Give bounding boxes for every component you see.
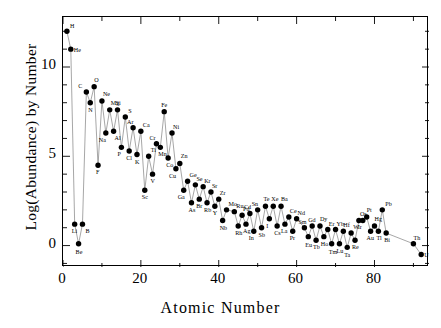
y-tick-label: 5 [26, 145, 56, 162]
data-point [181, 188, 186, 193]
element-label: I [266, 223, 268, 229]
element-label: Pt [367, 207, 372, 213]
x-tick-label: 80 [353, 270, 393, 287]
data-point [263, 204, 268, 209]
data-point [337, 241, 342, 246]
data-point [419, 252, 424, 257]
abundance-line [67, 31, 421, 254]
element-label: Au [367, 235, 374, 241]
data-point [146, 154, 151, 159]
element-label: Nb [220, 225, 227, 231]
data-point [126, 148, 131, 153]
data-point [115, 107, 120, 112]
data-point [158, 145, 163, 150]
data-point [282, 221, 287, 226]
element-label: As [188, 207, 195, 213]
element-label: Pb [385, 201, 391, 207]
data-point [317, 223, 322, 228]
element-label: Br [196, 203, 202, 209]
element-label: F [96, 169, 99, 175]
element-label: He [74, 47, 81, 53]
data-point [204, 200, 209, 205]
data-point [267, 216, 272, 221]
element-label: Ta [344, 252, 350, 258]
data-point [243, 221, 248, 226]
data-point [88, 100, 93, 105]
element-label: Tl [376, 235, 381, 241]
data-point [306, 234, 311, 239]
element-label: Ho [321, 241, 328, 247]
element-label: Si [116, 100, 121, 106]
element-label: Lu [336, 248, 343, 254]
data-point [103, 130, 108, 135]
data-point [313, 238, 318, 243]
element-label: Hg [374, 216, 381, 222]
element-label: Dy [320, 216, 327, 222]
element-label: Cs [274, 230, 280, 236]
x-tick-label: 20 [120, 270, 160, 287]
data-point [142, 188, 147, 193]
element-label: Te [263, 196, 269, 202]
y-tick-label: 10 [26, 56, 56, 73]
data-point [220, 218, 225, 223]
element-label: Nd [298, 210, 305, 216]
element-label: Y [213, 210, 217, 216]
element-label: Na [99, 137, 106, 143]
element-label: Ar [127, 119, 133, 125]
data-point [150, 171, 155, 176]
element-label: Ni [173, 124, 179, 130]
data-point [286, 214, 291, 219]
data-point [173, 166, 178, 171]
element-label: S [128, 108, 131, 114]
element-label: Ir [358, 224, 362, 230]
data-point [309, 223, 314, 228]
data-point [348, 230, 353, 235]
element-label: Fe [161, 102, 167, 108]
abundance-chart: Log(Abundance) by Number Atomic Number 0… [0, 0, 441, 328]
element-label: Al [115, 135, 121, 141]
element-label: Eu [305, 242, 312, 248]
data-point [352, 238, 357, 243]
data-point [107, 107, 112, 112]
element-label: Ne [103, 91, 110, 97]
element-label: Zr [220, 190, 226, 196]
data-point [134, 152, 139, 157]
data-point [251, 229, 256, 234]
data-point [177, 161, 182, 166]
element-label: Kr [204, 178, 210, 184]
data-point [278, 204, 283, 209]
data-point [383, 230, 388, 235]
element-label: N [88, 107, 92, 113]
data-point [290, 229, 295, 234]
data-point [162, 109, 167, 114]
data-point [68, 46, 73, 51]
element-label: Rh [235, 230, 242, 236]
element-label: Ga [178, 194, 185, 200]
element-label: C [78, 83, 82, 89]
x-tick-label: 60 [276, 270, 316, 287]
element-label: Cu [169, 173, 176, 179]
element-label: Ti [151, 147, 156, 153]
data-point [119, 145, 124, 150]
data-point [325, 227, 330, 232]
data-point [372, 223, 377, 228]
element-label: La [281, 228, 287, 234]
element-label: Bi [384, 237, 390, 243]
element-label: Ba [281, 196, 288, 202]
element-label: U [424, 252, 428, 258]
data-point [91, 84, 96, 89]
element-label: Er [329, 221, 335, 227]
data-point [368, 229, 373, 234]
data-point [271, 204, 276, 209]
data-point [341, 229, 346, 234]
data-point [197, 196, 202, 201]
data-point [329, 241, 334, 246]
data-point [236, 223, 241, 228]
element-label: P [117, 151, 120, 157]
data-point [321, 234, 326, 239]
element-label: Ce [290, 208, 297, 214]
element-label: Be [76, 249, 83, 255]
data-point [216, 196, 221, 201]
element-label: O [94, 77, 98, 83]
data-point [232, 209, 237, 214]
